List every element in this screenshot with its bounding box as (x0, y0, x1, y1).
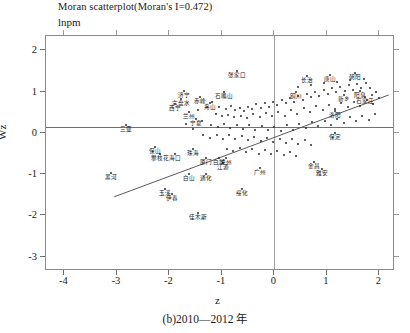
data-point (210, 124, 212, 126)
data-point (374, 113, 376, 115)
x-tick-mark (221, 270, 222, 275)
data-point (185, 123, 187, 125)
data-point (277, 111, 279, 113)
y-tick-label: 0 (0, 126, 37, 137)
point-label: 三亚 (120, 127, 132, 133)
data-point (216, 134, 218, 136)
data-point (303, 107, 305, 109)
data-point (222, 138, 224, 140)
point-label: 长治 (301, 79, 313, 85)
y-tick-label: -3 (0, 250, 37, 261)
data-point (322, 109, 324, 111)
data-point (296, 113, 298, 115)
data-point (260, 140, 262, 142)
data-point (251, 148, 253, 150)
x-tick-mark (273, 270, 274, 275)
x-tick-label: 1 (323, 275, 328, 286)
plot-area: 张家口长治唐山朝阳济宁石嘴山铜川阳泉赤峰六盘水舟山西宁石家庄新乡兰州宁夏洛阳三亚… (45, 35, 394, 270)
data-point (240, 115, 242, 117)
data-point (292, 129, 294, 131)
x-tick-mark (378, 270, 379, 275)
point-label: 舟山 (204, 105, 216, 111)
data-point (242, 128, 244, 130)
data-point (239, 147, 241, 149)
data-point (241, 135, 243, 137)
data-point (324, 120, 326, 122)
data-point (230, 105, 232, 107)
point-label: 铜川 (290, 94, 302, 100)
data-point (315, 105, 317, 107)
point-label: 洛阳 (329, 114, 341, 120)
data-point (252, 113, 254, 115)
point-label: 石嘴山 (215, 95, 233, 101)
x-axis-label: z (215, 294, 220, 306)
x-tick-label: -4 (59, 275, 68, 286)
data-point (368, 119, 370, 121)
data-point (309, 111, 311, 113)
point-label: 西宁 (169, 106, 181, 112)
data-point (273, 126, 275, 128)
data-point (248, 124, 250, 126)
data-point (261, 125, 263, 127)
data-point (331, 87, 333, 89)
data-point (234, 138, 236, 140)
point-label: 保山 (149, 150, 161, 156)
data-point (311, 121, 313, 123)
point-label: 石家庄 (356, 100, 374, 106)
data-point (266, 137, 268, 139)
data-point (272, 141, 274, 143)
data-point (297, 143, 299, 145)
data-point (264, 149, 266, 151)
x-tick-label: -3 (111, 275, 120, 286)
data-point (328, 104, 330, 106)
data-point (264, 102, 266, 104)
data-point (285, 142, 287, 144)
data-point (259, 116, 261, 118)
point-label: 雅安 (316, 171, 328, 177)
data-point (223, 123, 225, 125)
x-tick-mark (116, 270, 117, 275)
data-point (298, 123, 300, 125)
data-point (310, 96, 312, 98)
data-point (255, 103, 257, 105)
data-point (318, 95, 320, 97)
data-point (317, 125, 319, 127)
data-point (197, 109, 199, 111)
point-label: 宁夏 (190, 121, 202, 127)
data-point (280, 130, 282, 132)
data-point (314, 91, 316, 93)
y-tick-mark-right (394, 173, 399, 174)
data-point (284, 115, 286, 117)
x-tick-mark (326, 270, 327, 275)
data-point (247, 139, 249, 141)
data-point (356, 83, 358, 85)
point-label: 佳木斯 (189, 215, 207, 221)
data-point (245, 151, 247, 153)
data-point (247, 106, 249, 108)
data-point (272, 101, 274, 103)
point-label: 保定 (329, 135, 341, 141)
point-label: 黑河 (105, 175, 117, 181)
y-tick-mark-right (394, 49, 399, 50)
data-point (304, 139, 306, 141)
y-tick-label: 1 (0, 85, 37, 96)
data-point (232, 150, 234, 152)
data-point (233, 116, 235, 118)
data-point (267, 129, 269, 131)
point-label: 济宁 (178, 93, 190, 99)
data-point (355, 120, 357, 122)
point-label: 金昌 (308, 164, 320, 170)
point-label: 白山 (183, 176, 195, 182)
regression-fit-line (46, 36, 393, 269)
y-tick-label: 2 (0, 44, 37, 55)
data-point (323, 89, 325, 91)
data-point (378, 97, 380, 99)
data-point (209, 137, 211, 139)
data-point (310, 84, 312, 86)
data-point (295, 155, 297, 157)
data-point (202, 134, 204, 136)
data-point (344, 90, 346, 92)
data-point (276, 104, 278, 106)
data-point (286, 124, 288, 126)
data-point (285, 102, 287, 104)
